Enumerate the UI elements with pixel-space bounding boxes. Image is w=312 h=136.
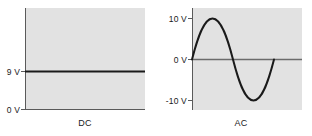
- chart-panel-ac: 10 V 0 V -10 V AC: [156, 0, 312, 136]
- ac-ytick-label-neg10v: -10 V: [166, 96, 187, 106]
- ac-chart-svg: 10 V 0 V -10 V AC: [156, 0, 312, 136]
- dc-axis-caption: DC: [78, 118, 92, 128]
- dc-chart-svg: 9 V 0 V DC: [0, 0, 156, 136]
- ac-ytick-label-0v: 0 V: [174, 55, 187, 65]
- ac-axis-caption: AC: [234, 118, 247, 128]
- dc-ytick-label-0v: 0 V: [7, 105, 20, 115]
- dc-ytick-label-9v: 9 V: [7, 67, 20, 77]
- dc-plot-area: [25, 8, 145, 110]
- ac-ytick-label-10v: 10 V: [169, 14, 187, 24]
- chart-panel-dc: 9 V 0 V DC: [0, 0, 156, 136]
- voltage-comparison-figure: 9 V 0 V DC 10 V 0 V -10 V AC: [0, 0, 312, 136]
